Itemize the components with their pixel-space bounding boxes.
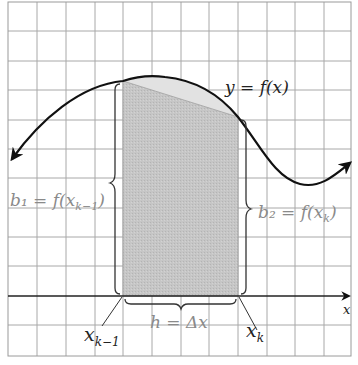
width-label: h = Δx — [150, 312, 208, 332]
diagram-canvas: x y = f(x) b₁ = f(xk−1) b₂ = f(xk) h = Δ… — [0, 0, 358, 365]
curve-label: y = f(x) — [224, 77, 289, 97]
left-base-brace — [110, 84, 120, 294]
trapezoid — [123, 81, 238, 296]
x-left-label: xk−1 — [84, 323, 120, 349]
x-axis-label: x — [343, 302, 351, 317]
x-right-label: xk — [246, 319, 264, 345]
right-base-label: b₂ = f(xk) — [258, 202, 337, 225]
trapezoid-rule-diagram: x y = f(x) b₁ = f(xk−1) b₂ = f(xk) h = Δ… — [0, 0, 358, 365]
x-left-leader — [102, 297, 122, 326]
right-base-brace — [241, 120, 251, 294]
left-base-label: b₁ = f(xk−1) — [10, 190, 105, 213]
